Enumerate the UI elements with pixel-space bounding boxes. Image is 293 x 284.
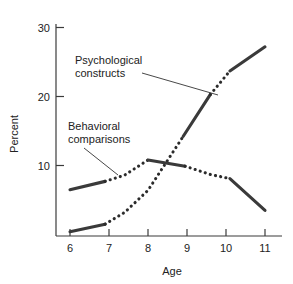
y-tick-label-20: 20 — [38, 91, 50, 103]
y-tick-label-30: 30 — [38, 22, 50, 34]
x-tick-label-9: 9 — [184, 242, 190, 254]
chart-container: 30 20 10 Percent 6 7 8 9 10 11 Age Psych… — [0, 0, 293, 284]
series-behavioral-comparisons-segment-1-dotted — [105, 160, 148, 181]
annotation-psychological-constructs: Psychological constructs — [75, 54, 218, 95]
x-tick-label-11: 11 — [259, 242, 270, 254]
x-tick-label-6: 6 — [67, 242, 73, 254]
y-tick-label-10: 10 — [38, 160, 50, 172]
x-axis-title: Age — [162, 265, 182, 277]
series-psychological-constructs-segment-0-solid — [70, 224, 105, 232]
annotation-behavioral-comparisons: Behavioral comparisons — [68, 120, 131, 175]
annotation-psychological-line1: Psychological — [75, 54, 142, 66]
x-tick-label-8: 8 — [145, 242, 151, 254]
series-psychological-constructs-segment-3-dotted — [210, 71, 230, 94]
x-axis: 6 7 8 9 10 11 Age — [56, 229, 282, 277]
x-tick-label-10: 10 — [220, 242, 232, 254]
line-chart: 30 20 10 Percent 6 7 8 9 10 11 Age Psych… — [0, 0, 293, 284]
series-psychological-constructs-segment-2-solid — [183, 94, 210, 136]
series-behavioral-comparisons-segment-3-dotted — [185, 166, 230, 178]
annotation-behavioral-line1: Behavioral — [68, 120, 120, 132]
series-psychological-constructs-segment-4-solid — [230, 47, 265, 71]
series-behavioral-comparisons-segment-4-solid — [230, 179, 265, 211]
y-axis: 30 20 10 Percent — [8, 22, 64, 237]
annotation-behavioral-line2: comparisons — [68, 133, 131, 145]
annotation-psychological-line2: constructs — [75, 67, 126, 79]
series-psychological-constructs-segment-1-dotted — [105, 137, 183, 225]
y-axis-title: Percent — [8, 115, 20, 153]
x-tick-label-7: 7 — [106, 242, 112, 254]
annotation-psychological-leader — [142, 73, 218, 95]
series-behavioral-comparisons-segment-0-solid — [70, 181, 105, 189]
annotation-behavioral-leader — [84, 148, 118, 175]
